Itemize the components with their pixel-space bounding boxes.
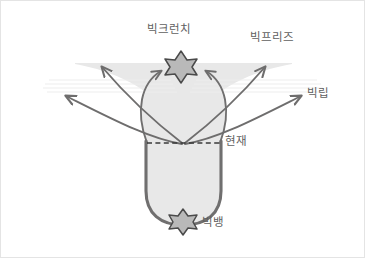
cosmology-diagram xyxy=(1,1,365,258)
diagram-frame: 빅크런치 빅프리즈 빅립 현재 빅뱅 xyxy=(0,0,365,258)
label-big-freeze: 빅프리즈 xyxy=(250,31,294,44)
label-big-crunch: 빅크런치 xyxy=(147,23,191,36)
label-present: 현재 xyxy=(225,135,247,148)
label-big-rip: 빅립 xyxy=(307,87,329,100)
label-big-bang: 빅뱅 xyxy=(202,216,224,229)
